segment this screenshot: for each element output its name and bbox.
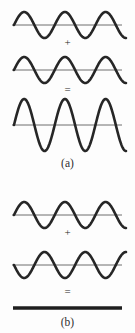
panel-b-equals-operator: = [0, 286, 135, 297]
panel-b-plus-operator: + [0, 227, 135, 238]
panel-a-equals-operator: = [0, 84, 135, 95]
panel-a-plus-operator: + [0, 37, 135, 48]
wave-interference-figure: + = (a) + = (b) [0, 0, 135, 333]
panel-a-label: (a) [0, 157, 135, 169]
panel-b-label: (b) [0, 316, 135, 328]
